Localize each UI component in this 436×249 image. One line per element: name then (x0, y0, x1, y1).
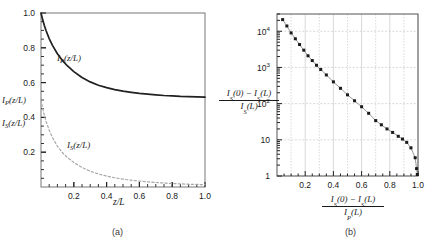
panel-b-ytick-label: 1 (265, 171, 270, 181)
panel-b-data-point (391, 131, 394, 134)
panel-b-data-point (416, 173, 419, 176)
panel-b-ylabel-denominator: IS(L) (219, 101, 279, 113)
panel-b-data-point (281, 18, 284, 21)
panel-b-data-point (294, 37, 297, 40)
panel-b-data-point (290, 31, 293, 34)
panel-a-frame (41, 13, 205, 187)
panel-b-data-point (409, 146, 412, 149)
panel-b-data-point (325, 73, 328, 76)
panel-b-data-point (414, 156, 417, 159)
panel-b-data-point (339, 87, 342, 90)
panel-b-xtick-label: 0.8 (384, 180, 396, 190)
panel-a-xtick-label: 1.0 (199, 191, 211, 201)
panel-a-caption: (a) (112, 227, 123, 237)
panel-b-data-point (302, 49, 305, 52)
panel-b-xlabel-numerator: IS(0) − IS(L) (322, 194, 384, 207)
panel-b-data-point (298, 43, 301, 46)
panel-a-xaxis-label: z/L (113, 198, 125, 208)
panel-a-xtick-label: 0.4 (101, 191, 113, 201)
panel-b-data-point (360, 105, 363, 108)
panel-b-xlabel: IS(0) − IS(L) IP(L) (322, 194, 384, 220)
panel-b-data-point (374, 119, 377, 122)
panel-b-data-point (307, 54, 310, 57)
panel-a-xtick-label: 0.2 (68, 191, 80, 201)
panel-b-data-point (405, 141, 408, 144)
panel-a: 0.20.40.60.81.00.20.40.60.81.0 (0, 0, 215, 215)
panel-b-xtick-label: 0.2 (299, 180, 311, 190)
panel-b-data-point (315, 64, 318, 67)
panel-a-ytick-label: 0.8 (23, 43, 35, 53)
panel-a-ytick-label: 1.0 (23, 8, 35, 18)
panel-b-data-point (285, 24, 288, 27)
panel-a-ylabel-is: IS(z/L) (2, 119, 25, 128)
panel-b-data-point (415, 167, 418, 170)
panel-b-xtick-label: 0.4 (327, 180, 339, 190)
panel-a-curve-label-ip: IP(z/L) (57, 54, 81, 63)
panel-b-data-point (380, 123, 383, 126)
panel-a-curve-label-is: IS(z/L) (67, 141, 90, 150)
panel-b-data-point (367, 112, 370, 115)
panel-a-curve-is (41, 100, 205, 185)
panel-b-xlabel-denominator: IP(L) (322, 207, 384, 219)
panel-b-data-point (401, 138, 404, 141)
panel-b-ytick-label: 103 (257, 61, 270, 73)
panel-a-plot: 0.20.40.60.81.00.20.40.60.81.0 (0, 0, 215, 215)
panel-b-ylabel: IS(0) − IS(L) IS(L) (219, 88, 279, 114)
panel-b-data-point (346, 93, 349, 96)
panel-a-xtick-label: 0.8 (166, 191, 178, 201)
panel-a-ylabel-ip: IP(z/L) (2, 96, 26, 105)
panel-b-data-point (319, 68, 322, 71)
panel-a-ytick-label: 0.6 (23, 78, 35, 88)
panel-a-ytick-label: 0.2 (23, 147, 35, 157)
panel-b-xtick-label: 0.6 (356, 180, 368, 190)
panel-b-data-point (397, 135, 400, 138)
panel-b-fit-line (283, 20, 418, 175)
panel-b-data-point (385, 127, 388, 130)
panel-b-data-point (311, 59, 314, 62)
figure-container: 0.20.40.60.81.00.20.40.60.81.0 IP(z/L) I… (0, 0, 436, 249)
panel-b-xtick-label: 1.0 (412, 180, 424, 190)
panel-b-data-point (332, 80, 335, 83)
panel-b-data-point (353, 99, 356, 102)
panel-b-ylabel-numerator: IS(0) − IS(L) (219, 88, 279, 101)
panel-b-ytick-label: 104 (257, 25, 270, 37)
panel-b-ytick-label: 10 (261, 135, 271, 145)
panel-b-caption: (b) (345, 227, 356, 237)
panel-a-xtick-label: 0.6 (133, 191, 145, 201)
